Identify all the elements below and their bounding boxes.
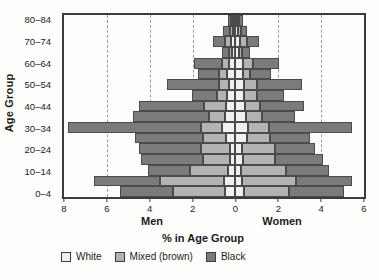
- bar-row-0–4: [64, 186, 364, 197]
- men-bar-30–34: [64, 122, 235, 133]
- segment-men-black: [192, 90, 218, 101]
- segment-women-black: [257, 79, 302, 90]
- legend-label: Black: [221, 251, 245, 262]
- women-axis-label: Women: [262, 215, 302, 227]
- x-tick-label: 6: [104, 203, 109, 214]
- segment-women-black: [247, 36, 259, 47]
- segment-women-mixed: [248, 122, 268, 133]
- segment-women-white: [235, 154, 242, 165]
- bar-row-15–19: [64, 154, 364, 165]
- legend-swatch-mixed: [115, 252, 125, 262]
- men-bar-55–59: [64, 69, 235, 80]
- population-pyramid-figure: Age Group 80–8470–7460–6450–5440–4430–34…: [0, 0, 379, 280]
- segment-men-white: [226, 133, 236, 144]
- segment-men-mixed: [190, 165, 227, 176]
- x-tick: 6: [104, 199, 109, 214]
- men-bar-80–84: [64, 15, 235, 26]
- bar-row-10–14: [64, 165, 364, 176]
- segment-men-mixed: [219, 69, 226, 80]
- segment-women-mixed: [242, 143, 275, 154]
- segment-women-black: [270, 133, 311, 144]
- segment-women-mixed: [241, 165, 286, 176]
- bar-row-25–29: [64, 133, 364, 144]
- women-bar-70–74: [235, 36, 364, 47]
- women-bar-65–69: [235, 47, 364, 58]
- segment-women-black: [286, 165, 329, 176]
- x-tick-label: 2: [276, 203, 281, 214]
- segment-women-white: [235, 90, 244, 101]
- legend-item-mixed: Mixed (brown): [115, 251, 193, 262]
- women-bar-0–4: [235, 186, 364, 197]
- segment-women-black: [257, 90, 284, 101]
- legend-label: White: [76, 251, 102, 262]
- men-bar-45–49: [64, 90, 235, 101]
- segment-women-white: [235, 133, 247, 144]
- women-bar-15–19: [235, 154, 364, 165]
- x-tick-mark: [149, 199, 150, 202]
- x-tick-mark: [192, 199, 193, 202]
- segment-women-mixed: [246, 111, 262, 122]
- women-bar-5–9: [235, 176, 364, 187]
- x-tick-mark: [363, 199, 364, 202]
- x-tick: 4: [318, 199, 323, 214]
- segment-men-mixed: [222, 58, 229, 69]
- men-bar-20–24: [64, 143, 235, 154]
- y-tick-label: 50–54: [25, 79, 51, 90]
- zero-axis-line: [235, 15, 236, 197]
- women-bar-50–54: [235, 79, 364, 90]
- y-tick-label: 0–4: [35, 187, 51, 198]
- x-tick: 8: [61, 199, 66, 214]
- bar-row-20–24: [64, 143, 364, 154]
- segment-men-mixed: [201, 143, 230, 154]
- segment-men-black: [135, 133, 204, 144]
- segment-men-black: [94, 176, 160, 187]
- segment-men-mixed: [173, 186, 224, 197]
- women-bar-60–64: [235, 58, 364, 69]
- bar-row-50–54: [64, 79, 364, 90]
- x-tick-label: 4: [147, 203, 152, 214]
- x-tick-mark: [106, 199, 107, 202]
- men-bar-35–39: [64, 111, 235, 122]
- y-tick-label: 20–24: [25, 144, 51, 155]
- segment-men-white: [222, 122, 236, 133]
- x-tick: 6: [361, 199, 366, 214]
- segment-men-mixed: [203, 133, 225, 144]
- x-tick-mark: [235, 199, 236, 202]
- segment-women-black: [275, 143, 315, 154]
- segment-men-black: [141, 154, 203, 165]
- segment-men-white: [227, 90, 236, 101]
- bar-row-30–34: [64, 122, 364, 133]
- segment-women-black: [250, 69, 270, 80]
- x-tick: 2: [190, 199, 195, 214]
- segment-men-white: [226, 101, 236, 112]
- segment-men-black: [148, 165, 191, 176]
- men-bar-25–29: [64, 133, 235, 144]
- legend-label: Mixed (brown): [130, 251, 193, 262]
- segment-women-black: [242, 47, 251, 58]
- legend-swatch-white: [61, 252, 71, 262]
- x-axis-title: % in Age Group: [162, 232, 244, 244]
- segment-men-black: [68, 122, 201, 133]
- segment-men-black: [139, 101, 204, 112]
- segment-women-mixed: [244, 186, 289, 197]
- segment-men-black: [194, 58, 222, 69]
- segment-women-black: [239, 15, 242, 26]
- segment-women-black: [262, 111, 295, 122]
- segment-men-white: [227, 69, 236, 80]
- segment-men-black: [133, 111, 209, 122]
- segment-men-black: [222, 47, 229, 58]
- women-bar-20–24: [235, 143, 364, 154]
- legend: WhiteMixed (brown)Black: [61, 251, 258, 262]
- x-tick-mark: [278, 199, 279, 202]
- x-tick-mark: [63, 199, 64, 202]
- men-bar-40–44: [64, 101, 235, 112]
- bar-row-60–64: [64, 58, 364, 69]
- segment-women-mixed: [245, 101, 260, 112]
- segment-men-mixed: [217, 90, 227, 101]
- legend-swatch-black: [206, 252, 216, 262]
- y-tick-label: 80–84: [25, 14, 51, 25]
- y-tick-label: 30–34: [25, 122, 51, 133]
- segment-men-mixed: [203, 154, 230, 165]
- legend-item-white: White: [61, 251, 102, 262]
- legend-item-black: Black: [206, 251, 245, 262]
